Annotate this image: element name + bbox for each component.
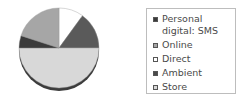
legend-swatch-icon — [153, 17, 158, 22]
legend-label: Store — [162, 81, 187, 93]
legend-item: Direct — [153, 53, 231, 65]
legend-item: Online — [153, 39, 231, 51]
legend-swatch-icon — [153, 57, 158, 62]
legend-swatch-icon — [153, 85, 158, 90]
legend-item: Store — [153, 81, 231, 93]
legend-label: Personal digital: SMS — [162, 13, 231, 37]
pie-slice-store — [19, 48, 99, 88]
legend-swatch-icon — [153, 43, 158, 48]
legend: Personal digital: SMSOnlineDirectAmbient… — [146, 8, 236, 94]
pie-slices — [19, 8, 99, 88]
pie-chart — [14, 5, 104, 97]
legend-items: Personal digital: SMSOnlineDirectAmbient… — [153, 13, 231, 93]
legend-item: Ambient — [153, 67, 231, 79]
legend-label: Ambient — [162, 67, 202, 79]
legend-label: Online — [162, 39, 193, 51]
legend-item: Personal digital: SMS — [153, 13, 231, 37]
legend-swatch-icon — [153, 71, 158, 76]
legend-label: Direct — [162, 53, 190, 65]
